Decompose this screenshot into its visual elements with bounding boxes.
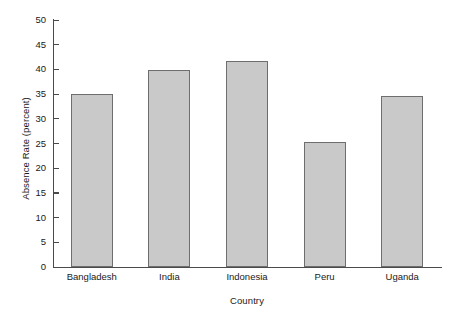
y-axis-tick-label: 5 [8,236,46,247]
x-axis-tick-label: Indonesia [208,271,286,282]
y-axis-tick-label: 45 [8,39,46,50]
y-axis-tick-label: 25 [8,138,46,149]
y-axis-tick [54,242,59,243]
y-axis-tick [54,143,59,144]
x-axis-title: Country [53,295,441,306]
bar-chart: Absence Rate (percent) 05101520253035404… [0,0,457,323]
x-axis-tick-label: Peru [286,271,364,282]
bar-india [148,70,190,267]
y-axis-tick-label: 10 [8,212,46,223]
y-axis-tick [54,69,59,70]
y-axis-tick-label: 20 [8,162,46,173]
y-axis-tick [54,44,59,45]
y-axis-tick-label: 35 [8,88,46,99]
y-axis-tick-label: 0 [8,261,46,272]
y-axis-tick [54,94,59,95]
y-axis-tick [54,267,59,268]
bar-bangladesh [71,94,113,267]
x-axis-tick-label: India [131,271,209,282]
x-axis-tick-label: Bangladesh [53,271,131,282]
y-axis-tick-label: 40 [8,63,46,74]
bar-peru [304,142,346,267]
x-axis-tick-label: Uganda [363,271,441,282]
y-axis-tick-label: 50 [8,14,46,25]
bar-indonesia [226,61,268,267]
y-axis-tick [54,192,59,193]
y-axis-tick [54,217,59,218]
y-axis-tick [54,118,59,119]
y-axis-tick-label: 15 [8,187,46,198]
y-axis-tick-label: 30 [8,113,46,124]
bar-uganda [381,96,423,267]
y-axis-tick [54,168,59,169]
y-axis-tick [54,20,59,21]
x-axis-line [53,267,442,268]
